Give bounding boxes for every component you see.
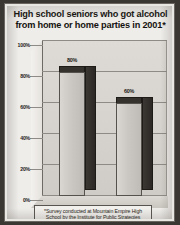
chart-title-line-1: High school seniors who got alcohol (13, 9, 168, 20)
y-axis-label-20: 20% (8, 166, 30, 172)
bar-females[interactable] (116, 97, 142, 196)
tick-stub-0 (30, 200, 43, 201)
bar-males[interactable] (59, 66, 85, 196)
y-axis-label-0: 0% (8, 197, 30, 203)
tick-stub-20 (30, 169, 43, 170)
bar-males-side-face (85, 66, 96, 190)
scan-frame: High school seniors who got alcohol from… (0, 0, 180, 225)
chart-title-line-2: from home or home parties in 2001* (13, 20, 168, 31)
chart-title: High school seniors who got alcohol from… (13, 9, 168, 31)
bar-females-front-face (116, 103, 142, 196)
footnote-line-2: School by the Institute for Public Strat… (38, 214, 148, 219)
y-axis-label-60: 60% (8, 104, 30, 110)
y-axis-label-40: 40% (8, 135, 30, 141)
paper-sheet: High school seniors who got alcohol from… (4, 3, 175, 222)
footnote-box: *Survey conducted at Mountain Empire Hig… (34, 205, 152, 219)
bar-males-front-face (59, 72, 85, 196)
tick-stub-100 (30, 45, 43, 46)
y-axis-label-100: 100% (8, 42, 30, 48)
plot-area: 100% 80% 60% 40% 20% 0% (25, 34, 170, 199)
tick-stub-60 (30, 107, 43, 108)
bar-label-males: 80% (67, 57, 77, 63)
chart-figure: High school seniors who got alcohol from… (7, 6, 172, 219)
bar-label-females: 60% (124, 88, 134, 94)
bar-females-side-face (142, 97, 153, 190)
tick-stub-40 (30, 138, 43, 139)
y-axis-label-80: 80% (8, 73, 30, 79)
gridline-100 (42, 40, 167, 41)
tick-stub-80 (30, 76, 43, 77)
